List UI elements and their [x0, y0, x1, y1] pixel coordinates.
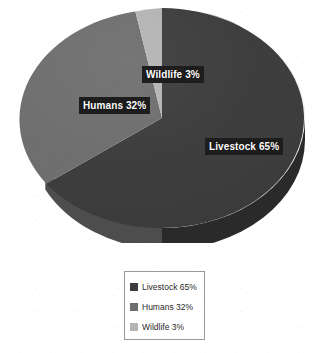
pie-label-livestock: Livestock 65% [205, 138, 283, 155]
pie-svg [19, 8, 305, 243]
legend-label-wildlife: Wildlife 3% [142, 322, 184, 332]
pie-label-humans: Humans 32% [79, 97, 150, 114]
chart-legend: Livestock 65% Humans 32% Wildlife 3% [124, 271, 205, 340]
pie-label-wildlife: Wildlife 3% [142, 66, 204, 83]
legend-swatch-wildlife [130, 323, 138, 331]
legend-item-livestock: Livestock 65% [130, 277, 200, 296]
pie-chart-figure: Wildlife 3% Humans 32% Livestock 65% Liv… [0, 0, 322, 353]
legend-label-livestock: Livestock 65% [142, 282, 197, 292]
pie-chart-graphic: Wildlife 3% Humans 32% Livestock 65% [19, 8, 305, 243]
legend-swatch-humans [130, 303, 138, 311]
legend-label-humans: Humans 32% [142, 302, 193, 312]
legend-item-wildlife: Wildlife 3% [130, 317, 200, 336]
pie-top-sheen [19, 8, 305, 228]
legend-swatch-livestock [130, 283, 138, 291]
legend-item-humans: Humans 32% [130, 297, 200, 316]
